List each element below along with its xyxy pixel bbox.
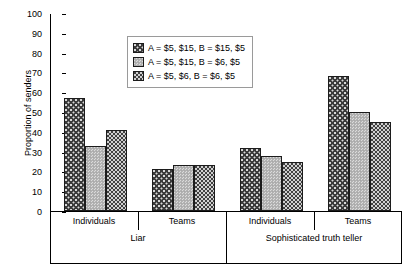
y-axis-tick-label: 80 [16,49,42,58]
bar [370,122,391,211]
y-axis-tick-label: 40 [16,128,42,137]
y-axis-tick-label: 30 [16,148,42,157]
y-axis-tick-label: 100 [16,10,42,19]
bar [261,156,282,211]
legend-item-label: A = $5, $6, B = $6, $5 [148,71,235,81]
category-label-level1: Individuals [226,214,314,228]
category-label-level1: Teams [138,214,226,228]
legend-swatch-icon [133,57,144,67]
y-axis-tick-label: 10 [16,188,42,197]
bar [152,169,173,211]
y-axis-tick-label: 0 [16,208,42,217]
bar-chart: Proportion of senders 100908070605040302… [0,0,413,275]
category-label-level2: Liar [50,231,226,245]
category-label-level1: Individuals [50,214,138,228]
category-separator [314,212,315,230]
category-separator-major [226,212,227,264]
bar [240,148,261,211]
legend-item: A = $5, $6, B = $6, $5 [133,69,245,83]
bar [106,130,127,211]
legend-swatch-icon [133,43,144,53]
y-axis-tick-label: 70 [16,69,42,78]
bar [85,146,106,211]
legend-swatch-icon [133,71,144,81]
category-label-level1: Teams [314,214,402,228]
bar [282,162,303,212]
y-axis-tick-labels: 1009080706050403020100 [16,14,42,212]
category-separator [138,212,139,230]
y-axis-tick-label: 90 [16,29,42,38]
y-axis-tick-label: 60 [16,89,42,98]
y-axis-tick-label: 20 [16,168,42,177]
bar [349,112,370,211]
category-axis: IndividualsTeamsIndividualsTeamsLiarSoph… [50,212,402,264]
legend-item-label: A = $5, $15, B = $6, $5 [148,57,240,67]
category-label-level2: Sophisticated truth teller [226,231,402,245]
legend: A = $5, $15, B = $15, $5 A = $5, $15, B … [127,36,253,88]
y-axis-tick-label: 50 [16,109,42,118]
bar [173,165,194,211]
legend-item-label: A = $5, $15, B = $15, $5 [148,43,245,53]
legend-item: A = $5, $15, B = $15, $5 [133,41,245,55]
legend-item: A = $5, $15, B = $6, $5 [133,55,245,69]
bar [194,165,215,211]
bar-group [51,14,139,211]
bar-group [315,14,403,211]
bar [64,98,85,211]
bar [328,76,349,211]
